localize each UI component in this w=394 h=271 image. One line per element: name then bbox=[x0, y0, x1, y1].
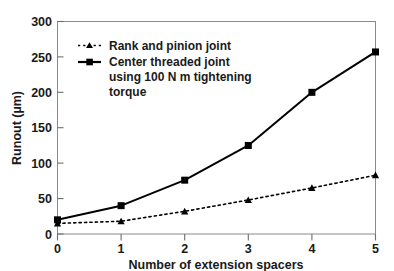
x-tick-label-5: 5 bbox=[372, 242, 379, 256]
x-tick-label-0: 0 bbox=[54, 242, 61, 256]
series-2-point bbox=[308, 89, 315, 96]
x-tick-label-4: 4 bbox=[308, 242, 315, 256]
x-tick-label-3: 3 bbox=[245, 242, 252, 256]
legend-label-center-threaded-line2: using 100 N m tightening bbox=[109, 70, 252, 84]
series-2-point bbox=[181, 177, 188, 184]
legend-label-center-threaded-line1: Center threaded joint bbox=[109, 55, 230, 69]
x-tick-label-1: 1 bbox=[118, 242, 125, 256]
y-tick-label-50: 50 bbox=[38, 192, 52, 206]
y-tick-label-300: 300 bbox=[31, 15, 52, 29]
series-2-point bbox=[245, 142, 252, 149]
y-tick-label-100: 100 bbox=[31, 157, 52, 171]
runout-line-chart: 0 50 100 150 200 250 300 0 1 2 3 4 5 Run… bbox=[0, 0, 394, 271]
y-tick-label-0: 0 bbox=[45, 228, 52, 242]
series-2-point bbox=[372, 48, 379, 55]
y-tick-label-250: 250 bbox=[31, 51, 52, 65]
x-tick-label-2: 2 bbox=[181, 242, 188, 256]
series-2-point bbox=[54, 216, 61, 223]
series-2-point bbox=[118, 202, 125, 209]
y-tick-label-200: 200 bbox=[31, 86, 52, 100]
legend-label-rank-and-pinion: Rank and pinion joint bbox=[109, 39, 231, 53]
legend-label-center-threaded-line3: torque bbox=[109, 85, 147, 99]
y-tick-label-150: 150 bbox=[31, 121, 52, 135]
x-axis-title: Number of extension spacers bbox=[128, 258, 303, 271]
y-axis-title: Runout (µm) bbox=[10, 91, 24, 165]
chart-container: 0 50 100 150 200 250 300 0 1 2 3 4 5 Run… bbox=[0, 0, 394, 271]
